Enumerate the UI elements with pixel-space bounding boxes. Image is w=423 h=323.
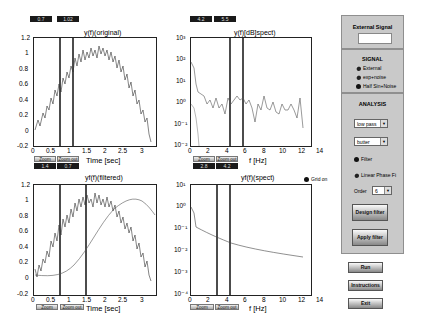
chevron-down-icon: ▼ (384, 187, 391, 194)
instructions-button[interactable]: Instructions (348, 280, 383, 291)
exit-button[interactable]: Exit (348, 298, 383, 309)
plot-title-spect: y(f)[dB]spect) (234, 29, 276, 36)
analysis-panel: ANALYSIS low pass▼ butter▼ Filter Linear… (341, 93, 404, 254)
plot-time-original[interactable] (33, 37, 157, 147)
plot-spect-original[interactable] (190, 37, 312, 147)
cursor-value-4[interactable]: 5.5 (214, 16, 236, 22)
plot-time-filtered[interactable] (33, 184, 157, 296)
zoom-button[interactable]: Zoom (193, 156, 215, 162)
order-select[interactable]: 6▼ (372, 186, 392, 195)
filter-design-select[interactable]: butter▼ (354, 137, 388, 146)
filtered-spectrum-trace (191, 185, 311, 295)
spectrum-trace (191, 38, 311, 146)
bottom-value-2[interactable]: 0.7 (57, 163, 79, 169)
radio-external[interactable]: External (356, 65, 381, 71)
bottom-value-4[interactable]: 4.2 (216, 163, 238, 169)
radio-filter[interactable]: Filter (354, 156, 372, 162)
radio-icon (356, 75, 361, 80)
zoom-button[interactable]: Zoom (190, 304, 214, 310)
filtered-trace (34, 185, 156, 295)
run-button[interactable]: Run (348, 262, 383, 273)
zoom-out-button[interactable]: Zoom out (60, 304, 84, 310)
plot-title-original: y(f)(original) (84, 29, 121, 36)
bottom-value-3[interactable]: 2.8 (193, 163, 215, 169)
plot-spect-filtered[interactable] (190, 184, 312, 296)
cursor-value-3[interactable]: 4.2 (190, 16, 212, 22)
grid-on-toggle[interactable]: Grid on (304, 176, 327, 182)
external-signal-panel: External Signal (341, 15, 404, 49)
zoom-out-button[interactable]: Zoom out (215, 304, 239, 310)
cursor-value-2[interactable]: 1.02 (57, 16, 79, 22)
chevron-down-icon: ▼ (380, 138, 387, 145)
plot-title-filtered-spect: yf(f)(spect) (241, 174, 274, 181)
chevron-down-icon: ▼ (380, 120, 387, 127)
zoom-button[interactable]: Zoom (34, 156, 56, 162)
order-label: Order (354, 188, 367, 194)
cursor-value-1[interactable]: 0.7 (30, 16, 52, 22)
filter-type-select[interactable]: low pass▼ (354, 119, 388, 128)
signal-panel: SIGNAL External exp+noise Half Sin+Noise (341, 49, 404, 93)
radio-exp-noise[interactable]: exp+noise (356, 74, 386, 80)
radio-checked-icon (354, 157, 359, 162)
zoom-button[interactable]: Zoom (36, 304, 58, 310)
apply-filter-button[interactable]: Apply filter (352, 229, 388, 246)
radio-checked-icon (304, 177, 309, 182)
zoom-out-button[interactable]: Zoom out (57, 156, 79, 162)
radio-half-sin-noise[interactable]: Half Sin+Noise (356, 83, 396, 89)
radio-icon (356, 66, 361, 71)
radio-checked-icon (356, 84, 361, 89)
zoom-out-button[interactable]: Zoom out (216, 156, 238, 162)
external-signal-input[interactable] (358, 33, 392, 44)
bottom-value-1[interactable]: 1.4 (34, 163, 56, 169)
plot-title-filtered: yf(f)(filtered) (85, 174, 123, 181)
radio-icon (354, 173, 359, 178)
design-filter-button[interactable]: Design filter (352, 204, 388, 221)
radio-linear-phase[interactable]: Linear Phase Fi (354, 172, 396, 178)
signal-trace (34, 38, 156, 146)
